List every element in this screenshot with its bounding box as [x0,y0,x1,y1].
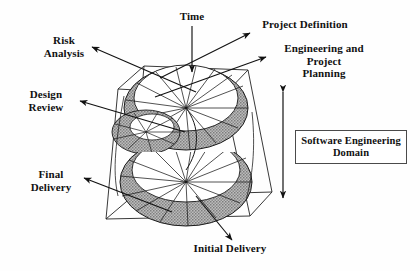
helix-spiral-icon [112,65,254,226]
label-risk-analysis: Risk Analysis [36,34,92,59]
label-software-engineering-domain: Software Engineering Domain [301,135,401,159]
software-engineering-domain-box: Software Engineering Domain [295,130,407,164]
spiral-model-figure: Time Risk Analysis Design Review Final D… [0,0,420,271]
label-project-definition: Project Definition [250,18,360,31]
label-final-delivery: Final Delivery [22,168,80,193]
label-engineering-planning: Engineering and Project Planning [266,42,382,80]
label-initial-delivery: Initial Delivery [190,242,270,255]
label-time: Time [168,10,216,23]
label-design-review: Design Review [18,88,74,113]
